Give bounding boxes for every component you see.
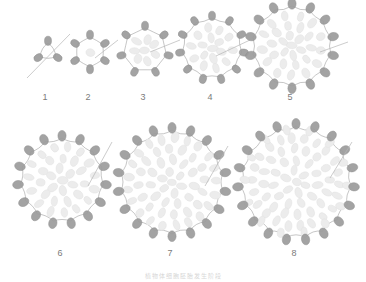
inner-cell: [80, 181, 89, 188]
inner-cell: [170, 210, 177, 219]
peripheral-cell: [288, 0, 296, 9]
inner-cell: [325, 177, 335, 184]
peripheral-cell: [45, 36, 52, 45]
peripheral-cell: [142, 21, 149, 30]
stage-label-2: 2: [85, 92, 90, 102]
inner-cell: [285, 220, 293, 231]
stage-label-4: 4: [207, 92, 212, 102]
stage-label-7: 7: [167, 248, 172, 258]
peripheral-cell: [87, 30, 94, 39]
stage-label-8: 8: [291, 248, 296, 258]
inner-cell: [60, 154, 67, 163]
peripheral-cell: [292, 118, 300, 129]
inner-cell: [139, 47, 149, 54]
peripheral-cell: [58, 130, 66, 141]
inner-cell: [166, 167, 174, 176]
peripheral-cell: [209, 11, 216, 20]
stage-label-1: 1: [42, 92, 47, 102]
inner-cell: [259, 169, 270, 175]
stage-label-6: 6: [57, 248, 62, 258]
inner-cell: [64, 142, 71, 152]
figure-root: 12345678 植物体细胞胚胎发生阶段: [0, 0, 366, 282]
inner-cell: [205, 23, 212, 33]
peripheral-cell: [87, 65, 94, 74]
figure-caption: 植物体细胞胚胎发生阶段: [0, 271, 366, 280]
inner-cell: [167, 179, 176, 186]
stage-label-5: 5: [287, 92, 292, 102]
peripheral-cell: [168, 122, 176, 133]
somatic-embryo-stages-diagram: 12345678: [0, 0, 366, 282]
peripheral-cell: [168, 231, 176, 242]
inner-cell: [312, 170, 322, 177]
stage-label-3: 3: [140, 92, 145, 102]
